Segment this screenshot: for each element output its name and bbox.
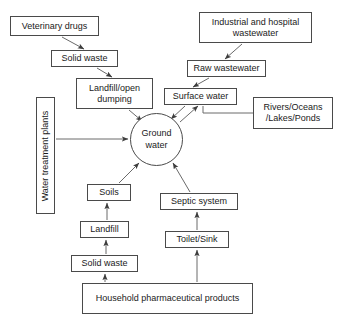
edge-rawwastewater-to-surfacewater — [193, 78, 209, 87]
node-raw-wastewater[interactable]: Raw wastewater — [187, 60, 266, 77]
edge-industrial-to-rawwastewater — [225, 44, 242, 59]
node-label: Solid waste — [81, 258, 127, 269]
edge-solidwaste-to-landfillopen — [97, 68, 112, 77]
node-label: Landfill/open dumping — [80, 83, 149, 104]
node-label: Toilet/Sink — [176, 234, 217, 245]
node-label: Septic system — [171, 196, 227, 207]
node-label: Solid waste — [61, 53, 107, 64]
node-label: Industrial and hospital wastewater — [203, 17, 308, 38]
node-rivers-oceans-lakes-ponds[interactable]: Rivers/Oceans /Lakes/Ponds — [253, 97, 333, 129]
node-label: Landfill — [90, 224, 119, 235]
node-label: Water treatment plants — [41, 110, 51, 201]
node-label: Raw wastewater — [193, 63, 259, 74]
node-label: Veterinary drugs — [22, 21, 88, 32]
node-industrial-hospital-wastewater[interactable]: Industrial and hospital wastewater — [199, 12, 312, 43]
node-ground-water[interactable]: Ground water — [130, 113, 183, 166]
edge-surfacewater-to-groundwater — [171, 106, 185, 119]
node-household-pharmaceutical-products[interactable]: Household pharmaceutical products — [82, 283, 253, 314]
node-solid-waste-bottom[interactable]: Solid waste — [71, 255, 138, 272]
node-surface-water[interactable]: Surface water — [164, 88, 237, 105]
node-label: Surface water — [173, 91, 229, 102]
edge-rivers-to-surfacewater — [203, 106, 253, 113]
node-label: Rivers/Oceans /Lakes/Ponds — [257, 102, 329, 123]
edge-septicsystem-to-groundwater — [173, 163, 190, 192]
node-label: Soils — [99, 187, 119, 198]
node-septic-system[interactable]: Septic system — [160, 193, 238, 210]
flow-diagram-canvas: Veterinary drugs Solid waste Landfill/op… — [0, 0, 340, 326]
node-landfill[interactable]: Landfill — [80, 221, 129, 238]
edge-veterinary-to-solidwaste — [62, 37, 84, 49]
node-toilet-sink[interactable]: Toilet/Sink — [165, 231, 229, 248]
node-landfill-open-dumping[interactable]: Landfill/open dumping — [76, 78, 153, 109]
node-label: Household pharmaceutical products — [96, 293, 240, 304]
node-solid-waste-top[interactable]: Solid waste — [51, 50, 118, 67]
node-soils[interactable]: Soils — [87, 184, 131, 201]
node-water-treatment-plants[interactable]: Water treatment plants — [36, 97, 55, 214]
edge-soils-to-groundwater — [119, 163, 139, 183]
node-veterinary-drugs[interactable]: Veterinary drugs — [10, 16, 99, 36]
node-label: Ground water — [131, 128, 182, 151]
